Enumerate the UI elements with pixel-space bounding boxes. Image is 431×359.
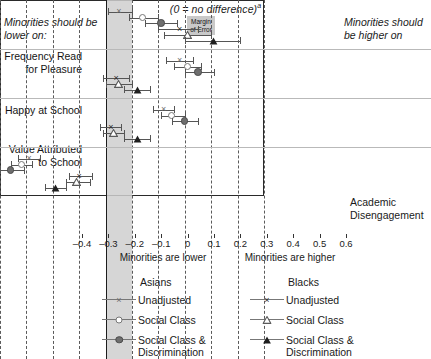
legend-symbol [248,334,286,345]
marker-filled-triangle [133,135,142,143]
error-bar-cap [129,14,130,21]
error-bar-cap [69,173,70,180]
legend-label: Unadjusted [286,294,339,306]
legend-item-asians-0[interactable]: ×Unadjusted [100,294,191,306]
error-bar-cap [106,81,107,88]
marker-x: × [175,56,184,65]
marker-open-triangle [109,129,118,137]
marker-open-circle [116,316,123,323]
row-label-happy-at-school: Happy at School [0,104,82,117]
x-axis-ticks: –0.4–0.3–0.2–0.100.10.20.30.40.50.6 [82,238,346,250]
x-tick-label: 0.1 [207,238,220,249]
legend-item-blacks-0[interactable]: ×Unadjusted [248,294,339,306]
legend-item-blacks-2[interactable]: Social Class &Discrimination [248,334,354,358]
row-label-line1: Value Attributed [0,143,82,156]
legend-label-line2: Discrimination [286,346,354,358]
marker-filled-circle [181,117,189,125]
x-tick-label: –0.3 [99,238,118,249]
row-label-line1: Happy at School [0,104,82,117]
x-tick-label: –0.1 [152,238,171,249]
marker-filled-circle [7,166,15,174]
error-bar-cap [185,69,186,76]
x-tick-label: 0.4 [287,238,300,249]
left-caption: Minorities should be lower on: [4,16,114,42]
row-label-line2: Disengagement [350,209,431,222]
error-bar-cap [161,112,162,119]
legend-item-blacks-1[interactable]: Social Class [248,314,344,326]
error-bar-cap [153,106,154,113]
marker-x: × [114,7,123,16]
legend-symbol: × [248,294,286,305]
x-axis-label-right: Minorities are higher [205,252,375,263]
error-bar-cap [150,135,151,142]
error-bar-cap [103,75,104,82]
error-bar-cap [92,173,93,180]
gridline [53,0,54,359]
marker-filled-triangle [51,184,60,192]
error-bar-cap [66,184,67,191]
error-bar-cap [0,167,1,174]
marker-filled-triangle [209,37,218,45]
error-bar-cap [124,135,125,142]
error-bar-cap [164,32,165,39]
legend-symbol [248,314,286,325]
error-bar-cap [124,86,125,93]
legend-item-asians-2[interactable]: Social Class &Discrimination [100,334,206,358]
legend-symbol: × [100,294,138,305]
marker-filled-circle [115,336,123,344]
chart-title: (0 = no difference)a [0,2,431,15]
marker-open-triangle [114,80,123,88]
x-tick-label: –0.2 [126,238,145,249]
legend-header-asians: Asians [140,276,172,288]
error-bar-cap [108,8,109,15]
legend-label: Social Class &Discrimination [138,334,206,358]
error-bar-cap [40,155,41,162]
error-bar-cap [174,63,175,70]
x-tick-label: 0.3 [260,238,273,249]
error-bar-cap [214,69,215,76]
row-separator [0,49,431,50]
error-bar-cap [129,75,130,82]
error-bar-cap [103,130,104,137]
error-bar-cap [198,26,199,33]
gridline [26,0,27,359]
marker-filled-triangle [133,86,142,94]
legend-label: Social Class [286,314,344,326]
row-separator [0,98,431,99]
legend-label: Unadjusted [138,294,191,306]
error-bar-cap [150,86,151,93]
row-label-line1: Academic [350,196,431,209]
right-caption: Minorities should be higher on [344,16,431,42]
error-bar-cap [166,57,167,64]
error-bar-cap [100,124,101,131]
legend-label: Social Class [138,314,196,326]
error-bar-cap [132,8,133,15]
legend-item-asians-1[interactable]: Social Class [100,314,196,326]
error-bar-cap [193,57,194,64]
error-bar-cap [174,106,175,113]
row-separator [0,147,431,148]
marker-open-triangle [263,316,272,324]
legend-header-blacks: Blacks [288,276,319,288]
error-bar-cap [24,167,25,174]
marker-open-triangle [72,178,81,186]
row-label-line2: for Pleasure [0,63,82,76]
error-bar-cap [121,124,122,131]
error-bar-cap [158,26,159,33]
x-tick-label: 0 [185,238,190,249]
row-label-frequency-read: Frequency Read for Pleasure [0,50,82,75]
error-bar-cap [185,37,186,44]
error-bar-cap [32,161,33,168]
error-bar-cap [45,184,46,191]
row-label-line1: Frequency Read [0,50,82,63]
marker-x: × [263,295,272,304]
chart-figure: (0 = no difference)a Minorities should b… [0,0,431,359]
marker-x: × [115,295,124,304]
x-tick-label: 0.5 [313,238,326,249]
x-tick-label: –0.4 [73,238,92,249]
gridline [211,0,212,359]
legend-label: Social Class &Discrimination [286,334,354,358]
chart-title-text: (0 = no difference) [170,3,257,15]
error-bar-cap [240,37,241,44]
chart-title-superscript: a [257,2,261,9]
